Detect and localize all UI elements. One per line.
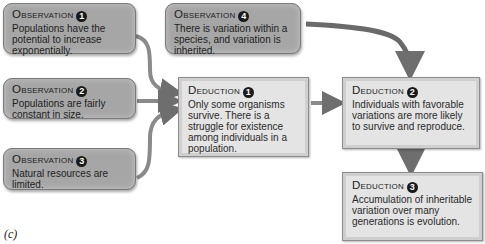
deduction-1-title: Deduction1	[188, 84, 299, 98]
observation-4-title: Observation4	[174, 8, 292, 22]
deduction-2-box: Deduction2 Individuals with favorable va…	[342, 77, 480, 149]
arrow-obs3-to-ded1	[137, 111, 172, 178]
number-badge-icon: 3	[76, 156, 87, 167]
deduction-3-title: Deduction3	[352, 179, 473, 193]
number-badge-icon: 2	[76, 86, 87, 97]
deduction-1-text: Only some organisms survive. There is a …	[188, 99, 299, 154]
observation-1-box: Observation1 Populations have the potent…	[3, 3, 136, 54]
observation-2-box: Observation2 Populations are fairly cons…	[3, 78, 136, 119]
arrow-obs4-to-ded2	[306, 24, 410, 66]
number-badge-icon: 3	[407, 182, 418, 193]
observation-3-title: Observation3	[12, 153, 127, 167]
observation-3-text: Natural resources are limited.	[12, 168, 127, 190]
number-badge-icon: 1	[76, 11, 87, 22]
figure-caption: (c)	[4, 227, 17, 242]
number-badge-icon: 4	[238, 11, 249, 22]
observation-1-title: Observation1	[12, 8, 127, 22]
observation-4-text: There is variation within a species, and…	[174, 23, 292, 56]
number-badge-icon: 2	[407, 87, 418, 98]
deduction-2-text: Individuals with favorable variations ar…	[352, 99, 470, 132]
observation-4-box: Observation4 There is variation within a…	[165, 3, 301, 54]
number-badge-icon: 1	[243, 87, 254, 98]
deduction-3-box: Deduction3 Accumulation of inheritable v…	[342, 172, 483, 241]
deduction-2-title: Deduction2	[352, 84, 470, 98]
observation-3-box: Observation3 Natural resources are limit…	[3, 148, 136, 190]
observation-1-text: Populations have the potential to increa…	[12, 23, 127, 56]
observation-2-text: Populations are fairly constant in size.	[12, 98, 127, 120]
deduction-1-box: Deduction1 Only some organisms survive. …	[178, 77, 309, 157]
deduction-3-text: Accumulation of inheritable variation ov…	[352, 194, 473, 227]
observation-2-title: Observation2	[12, 83, 127, 97]
